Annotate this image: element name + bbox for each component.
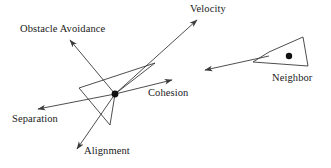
boid-center-dot <box>112 91 119 98</box>
velocity-vector-arrow <box>115 20 197 94</box>
label-cohesion: Cohesion <box>148 88 188 99</box>
neighbor-velocity-vector-arrow <box>205 56 269 70</box>
alignment-vector-arrow <box>77 94 115 149</box>
boid-steering-diagram: Obstacle Avoidance Velocity Cohesion Sep… <box>0 0 331 168</box>
label-velocity: Velocity <box>190 4 226 15</box>
label-separation: Separation <box>12 114 58 125</box>
neighbor-center-dot <box>286 53 292 59</box>
label-neighbor: Neighbor <box>272 73 312 84</box>
neighbor-body-outline <box>253 37 308 66</box>
obstacle-avoidance-vector-arrow <box>70 40 115 94</box>
separation-vector-arrow <box>38 94 115 109</box>
label-obstacle-avoidance: Obstacle Avoidance <box>20 24 105 35</box>
label-alignment: Alignment <box>84 146 130 157</box>
